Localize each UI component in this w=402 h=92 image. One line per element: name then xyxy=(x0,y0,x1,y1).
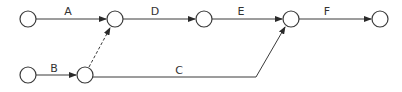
edge-label-a: A xyxy=(64,5,72,18)
node-5 xyxy=(372,11,388,27)
edge-label-b: B xyxy=(50,62,58,75)
node-2 xyxy=(107,11,123,27)
edge-label-f: F xyxy=(324,5,330,18)
node-7 xyxy=(77,67,93,83)
edge-c xyxy=(93,27,285,77)
edge-dummy xyxy=(89,28,110,67)
node-4 xyxy=(283,11,299,27)
edge-label-e: E xyxy=(238,5,245,18)
network-diagram: A D E F B C xyxy=(0,0,402,92)
edge-label-d: D xyxy=(151,5,159,18)
node-3 xyxy=(196,11,212,27)
edge-label-c: C xyxy=(175,64,183,77)
node-6 xyxy=(20,67,36,83)
node-1 xyxy=(20,11,36,27)
